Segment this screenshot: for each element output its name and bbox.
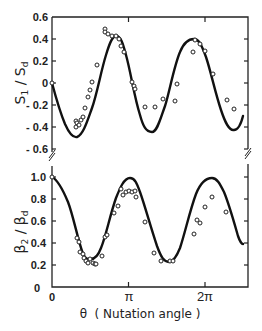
chart-figure: 0.6 0.4 0.2 0 - 0.2 - 0.4 - 0.6 S1 / Sd — [0, 0, 262, 331]
top-axis-break-right-icon — [245, 148, 251, 159]
top-y-tick-labels: 0.6 0.4 0.2 0 - 0.2 - 0.4 - 0.6 — [26, 11, 49, 155]
xtick-pi: π — [125, 289, 134, 304]
bottom-ytick-0: 0 — [34, 282, 40, 294]
top-ytick-neg-0-6: - 0.6 — [26, 143, 48, 155]
top-ytick-neg-0-2: - 0.2 — [26, 99, 48, 111]
top-ytick-0-2: 0.2 — [33, 55, 48, 67]
top-panel: 0.6 0.4 0.2 0 - 0.2 - 0.4 - 0.6 S1 / Sd — [12, 11, 251, 161]
top-ytick-neg-0-4: - 0.4 — [26, 121, 49, 133]
bottom-ytick-1-0: 1.0 — [31, 171, 46, 183]
bottom-ytick-0-6: 0.6 — [31, 215, 46, 227]
x-axis-title: θ ( Nutation angle ) — [80, 307, 201, 321]
bottom-ytick-0-2: 0.2 — [31, 259, 46, 271]
top-ytick-0: 0 — [42, 77, 48, 89]
xtick-0: 0 — [49, 291, 55, 303]
top-ytick-0-6: 0.6 — [33, 11, 48, 23]
top-data-points — [50, 27, 236, 129]
bottom-y-tick-labels: 1.0 0.8 0.6 0.4 0.2 0 — [31, 171, 47, 294]
top-y-ticks — [52, 17, 248, 149]
bottom-ytick-0-4: 0.4 — [31, 237, 47, 249]
xtick-2pi: 2π — [197, 289, 213, 304]
top-y-axis-title: S1 / Sd — [12, 62, 30, 105]
bottom-ytick-0-8: 0.8 — [31, 193, 46, 205]
bottom-ticks — [52, 177, 248, 287]
top-ytick-0-4: 0.4 — [33, 33, 49, 45]
bottom-y-axis-title: β2 / βd — [12, 211, 30, 254]
top-panel-frame — [52, 17, 248, 149]
bottom-panel: 1.0 0.8 0.6 0.4 0.2 0 0 π 2π θ ( Nutatio… — [12, 164, 248, 321]
bottom-theory-curve — [52, 177, 243, 262]
x-tick-labels: 0 π 2π — [49, 289, 213, 304]
